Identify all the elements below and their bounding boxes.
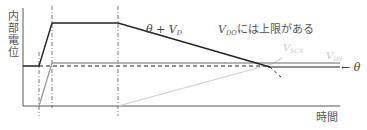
y-axis-label: 内部電位 [6,10,18,58]
internal-potential-diagram: 内部電位 時間 θ + VD VDOには上限がある VSCX VDS ← θ [0,0,367,130]
vds-label: VDS [326,51,342,62]
vdo-note-text: には上限がある [237,23,314,36]
diagram-canvas [0,0,367,130]
theta-arrow-label: ← θ [341,62,360,73]
vscx-line [118,58,282,106]
vdo-upper-limit-note: VDOには上限がある [218,24,314,37]
vds-line [39,63,340,106]
vscx-label: VSCX [283,43,303,54]
vdo-main: V [218,23,226,36]
vd-decline-extension [270,67,283,79]
vdo-sub: DO [226,29,237,37]
x-axis-label: 時間 [316,112,338,123]
vscx-sub: SCX [290,47,303,54]
theta-plus-vd-main: θ + V [146,23,177,36]
theta-plus-vd-sub: D [177,29,182,37]
theta-plus-vd-label: θ + VD [146,24,182,37]
